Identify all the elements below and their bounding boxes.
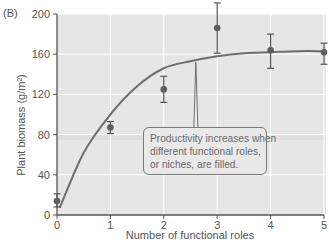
callout-line-3: or niches, are filled. [150, 158, 266, 171]
x-tick-label: 1 [107, 219, 113, 231]
panel-label: (B) [3, 7, 18, 19]
x-tick-label: 0 [54, 219, 60, 231]
x-tick-label: 5 [321, 219, 327, 231]
callout-line-1: Productivity increases when [150, 132, 266, 145]
callout-line-2: different functional roles, [150, 145, 266, 158]
y-tick-label: 40 [38, 169, 50, 181]
y-tick-label: 80 [38, 129, 50, 141]
data-point [161, 86, 168, 93]
y-axis-label: Plant biomass (g/m²) [15, 74, 27, 175]
x-tick-label: 4 [268, 219, 274, 231]
x-axis-label: Number of functional roles [126, 229, 254, 241]
y-tick-label: 160 [32, 48, 50, 60]
data-point [107, 124, 114, 131]
data-point [267, 47, 274, 54]
callout-annotation: Productivity increases when different fu… [143, 127, 267, 175]
data-point [54, 198, 61, 205]
biomass-chart: 04080120160200012345 (B) Plant biomass (… [0, 0, 329, 244]
y-tick-label: 0 [44, 209, 50, 221]
y-tick-label: 200 [32, 8, 50, 20]
plot-area: 04080120160200012345 [0, 0, 329, 244]
y-tick-label: 120 [32, 88, 50, 100]
plot-background [57, 14, 326, 215]
data-point [321, 49, 328, 56]
data-point [214, 25, 221, 32]
